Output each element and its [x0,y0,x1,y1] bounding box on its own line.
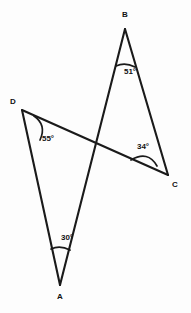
vertex-label-c: C [172,180,178,189]
geometry-diagram: A B C D 51° 34° 55° 30° [0,0,191,313]
angle-label-c: 34° [137,142,149,151]
angle-label-d: 55° [42,134,54,143]
segment-a-b [60,29,125,285]
angle-label-a: 30° [61,233,73,242]
angle-arc-a [51,247,70,250]
angle-label-b: 51° [124,67,136,76]
vertex-label-b: B [122,10,128,19]
vertex-label-a: A [57,292,63,301]
segment-b-c [125,29,168,175]
geometry-canvas: A B C D 51° 34° 55° 30° [0,0,191,313]
vertex-label-d: D [10,97,16,106]
